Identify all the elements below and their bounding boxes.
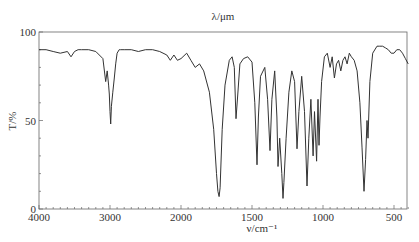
y-axis-tick-labels: 050100 — [20, 26, 37, 215]
x-tick-label: 500 — [386, 211, 403, 223]
y-axis-ticks — [39, 32, 43, 209]
y-axis-label: T/% — [6, 112, 18, 131]
x-tick-label: 4000 — [28, 211, 51, 223]
x-tick-label: 1000 — [312, 211, 335, 223]
x-tick-label: 2000 — [170, 211, 193, 223]
spectrum-line — [39, 46, 408, 198]
x-axis-tick-labels: 40003000200015001000500 — [28, 211, 403, 223]
x-axis-ticks — [39, 205, 408, 209]
chart-title: λ/μm — [212, 10, 235, 22]
x-axis-label: ν/cm⁻¹ — [247, 222, 278, 234]
x-tick-label: 3000 — [99, 211, 122, 223]
y-tick-label: 50 — [25, 115, 37, 127]
ir-spectrum-chart: 050100 40003000200015001000500 λ/μm ν/cm… — [0, 0, 419, 242]
y-tick-label: 100 — [20, 26, 37, 38]
